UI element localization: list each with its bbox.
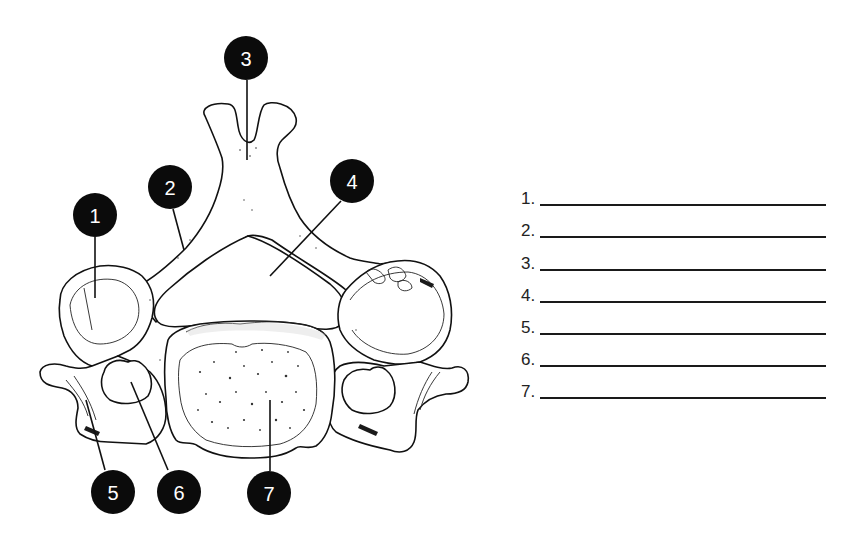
right-transverse-foramen [342,367,395,413]
answer-number: 5. [521,319,540,337]
answer-blank-3[interactable] [540,269,826,271]
answer-blank-6[interactable] [540,365,826,367]
callout-2: 2 [148,165,192,250]
answer-number: 6. [521,351,540,369]
answer-blank-2[interactable] [540,236,826,238]
callout-number: 6 [173,482,184,504]
answer-row-7: 7. [521,369,831,401]
answer-blank-5[interactable] [540,333,826,335]
answer-blank-4[interactable] [540,301,826,303]
callout-number: 4 [346,171,357,193]
answer-sheet: 1. 2. 3. 4. 5. 6. 7. [521,176,831,401]
answer-row-6: 6. [521,337,831,369]
answer-blank-1[interactable] [540,204,826,206]
callout-number: 5 [107,482,118,504]
vertebra-illustration [40,103,468,458]
answer-row-2: 2. [521,208,831,240]
answer-number: 7. [521,383,540,401]
answer-number: 1. [521,190,540,208]
answer-row-3: 3. [521,240,831,272]
left-transverse-foramen [102,360,152,403]
answer-row-4: 4. [521,273,831,305]
callout-number: 1 [89,205,100,227]
leader-line [173,209,184,250]
answer-number: 2. [521,222,540,240]
callout-number: 2 [164,177,175,199]
left-articular-process [59,265,153,366]
answer-row-1: 1. [521,176,831,208]
answer-row-5: 5. [521,305,831,337]
callout-number: 3 [240,48,251,70]
answer-number: 4. [521,287,540,305]
answer-number: 3. [521,255,540,273]
vertebral-body [165,321,335,458]
answer-blank-7[interactable] [540,397,826,399]
callout-number: 7 [263,483,274,505]
